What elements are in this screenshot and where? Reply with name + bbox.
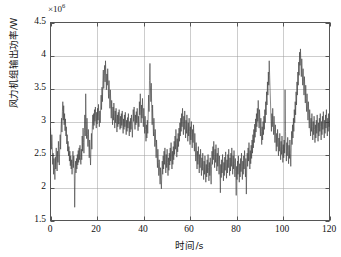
plot-area [0, 0, 341, 257]
data-series-line [51, 49, 330, 207]
chart-figure: ×106 风力机组输出功率/W 4.5 4 3.5 3 2.5 2 1.5 0 … [0, 0, 341, 257]
